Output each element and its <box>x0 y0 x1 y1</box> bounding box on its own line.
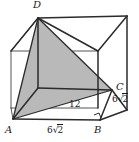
vertex-label-B: B <box>94 125 101 135</box>
edge-A-to-B <box>13 119 100 120</box>
vertex-label-D: D <box>33 0 41 10</box>
shaded-triangle-ADC <box>13 18 112 119</box>
vertex-label-A: A <box>5 125 12 135</box>
edge-toprightfront-to-toprightback <box>98 16 127 51</box>
geometry-figure: A B C D 6√2 12 6√2 <box>0 0 139 142</box>
figure-canvas <box>0 0 139 142</box>
measure-value-AC: 12 <box>69 99 80 109</box>
vertex-label-C: C <box>116 82 124 92</box>
right-angle-at-B <box>94 113 101 118</box>
measure-label-diagonal-AC: 12 <box>69 100 80 109</box>
edge-D-to-toprightfront <box>38 16 127 18</box>
measure-label-edge-AB: 6√2 <box>47 126 63 135</box>
measure-radicand-AB: 2 <box>57 124 63 135</box>
edge-backleftbottom-to-A <box>11 108 13 119</box>
measure-label-edge-BC: 6√2 <box>112 95 128 104</box>
measure-radicand-BC: 2 <box>122 93 128 104</box>
